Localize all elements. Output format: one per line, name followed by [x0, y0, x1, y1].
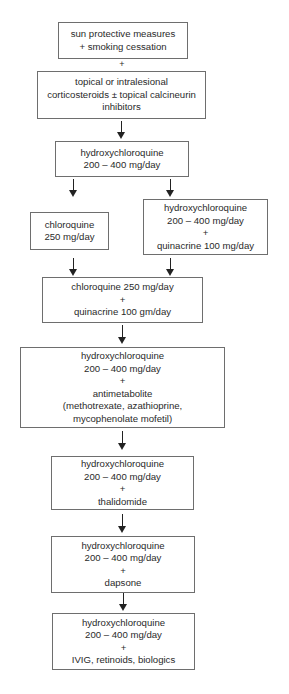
node-hydroxychloroquine-quinacrine: hydroxychloroquine 200 – 400 mg/day + qu… — [143, 199, 268, 255]
node-text: 200 – 400 mg/day — [84, 363, 161, 376]
node-text: topical or intralesional — [75, 76, 168, 89]
arrow-down-icon — [118, 431, 127, 450]
node-text: inhibitors — [102, 101, 140, 114]
node-text: 200 – 400 mg/day — [85, 552, 162, 565]
node-hydroxychloroquine-thalidomide: hydroxychloroquine 200 – 400 mg/day + th… — [51, 456, 194, 510]
node-text: hydroxychloroquine — [82, 617, 165, 630]
node-text: 200 – 400 mg/day — [85, 629, 162, 642]
arrow-down-icon — [118, 514, 127, 533]
node-text: + smoking cessation — [79, 41, 166, 54]
node-text: hydroxychloroquine — [81, 458, 164, 471]
node-hydroxychloroquine-ivig-retinoids-biologics: hydroxychloroquine 200 – 400 mg/day + IV… — [52, 613, 195, 670]
node-text: + — [120, 294, 126, 307]
node-text: 200 – 400 mg/day — [84, 471, 161, 484]
node-text: quinacrine 100 gm/day — [74, 306, 171, 319]
arrow-down-icon — [117, 121, 126, 139]
node-text: hydroxychloroquine — [81, 350, 164, 363]
node-text: chloroquine — [45, 219, 95, 232]
node-chloroquine: chloroquine 250 mg/day — [30, 212, 109, 250]
node-text: mycophenolate mofetil) — [73, 413, 172, 426]
arrow-down-icon — [119, 593, 128, 611]
node-text: chloroquine 250 mg/day — [71, 281, 173, 294]
node-text: hydroxychloroquine — [81, 540, 164, 553]
node-topical-corticosteroids: topical or intralesional corticosteroids… — [37, 71, 206, 119]
node-text: quinacrine 100 mg/day — [157, 240, 254, 253]
node-hydroxychloroquine-antimetabolite: hydroxychloroquine 200 – 400 mg/day + an… — [20, 347, 225, 428]
node-text: 250 mg/day — [44, 231, 94, 244]
node-text: dapsone — [105, 577, 142, 590]
node-text: + — [120, 375, 126, 388]
node-text: corticosteroids ± topical calcineurin — [47, 89, 196, 102]
node-text: hydroxychloroquine — [164, 202, 247, 215]
node-text: (methotrexate, azathioprine, — [63, 400, 182, 413]
arrow-down-icon — [69, 179, 78, 197]
node-text: hydroxychloroquine — [80, 147, 163, 160]
node-text: sun protective measures — [71, 28, 176, 41]
node-text: thalidomide — [98, 496, 147, 509]
node-text: 200 – 400 mg/day — [167, 215, 244, 228]
node-hydroxychloroquine-dapsone: hydroxychloroquine 200 – 400 mg/day + da… — [51, 536, 195, 593]
node-text: 200 – 400 mg/day — [84, 159, 161, 172]
node-text: IVIG, retinoids, biologics — [72, 654, 175, 667]
arrow-down-icon — [118, 325, 127, 344]
node-text: antimetabolite — [93, 388, 153, 401]
node-sun-protection-smoking-cessation: sun protective measures + smoking cessat… — [58, 22, 188, 59]
node-hydroxychloroquine: hydroxychloroquine 200 – 400 mg/day — [55, 141, 189, 177]
node-text: + — [120, 483, 126, 496]
arrow-down-icon — [166, 258, 175, 276]
node-text: + — [120, 565, 126, 578]
plus-connector: + — [112, 59, 132, 69]
node-chloroquine-quinacrine: chloroquine 250 mg/day + quinacrine 100 … — [42, 277, 203, 323]
arrow-down-icon — [69, 258, 78, 276]
arrow-down-icon — [166, 179, 175, 197]
node-text: + — [121, 642, 127, 655]
node-text: + — [203, 227, 209, 240]
